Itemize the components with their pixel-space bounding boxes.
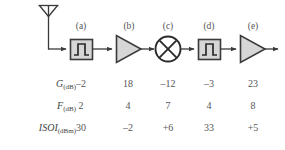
gain-value-e: 23 [233,79,273,89]
isoi-value-c: +6 [148,123,188,133]
noise-figure-value-d: 4 [189,101,229,111]
gain-value-d: –3 [189,79,229,89]
isoi-value-b: –2 [108,123,148,133]
antenna-icon [39,6,59,50]
isoi-value-a: 30 [61,123,101,133]
gain-value-a: –2 [61,79,101,89]
figure-canvas: (a) (b) (c) (d) (e) G(dB) –2 18 –12 –3 2… [0,0,285,150]
stage-label-c: (c) [153,22,183,32]
noise-figure-value-b: 4 [108,101,148,111]
noise-figure-value-e: 8 [233,101,273,111]
stage-d-filter-icon [199,40,221,60]
stage-b-amplifier-icon [117,36,142,63]
noise-figure-value-a: 2 [61,101,101,111]
stage-e-amplifier-icon [241,36,266,63]
noise-figure-value-c: 7 [148,101,188,111]
stage-label-d: (d) [194,22,224,32]
stage-label-e: (e) [238,22,268,32]
stage-label-b: (b) [114,22,144,32]
isoi-value-e: +5 [233,123,273,133]
gain-value-b: 18 [108,79,148,89]
stage-a-filter-icon [71,40,93,60]
gain-value-c: –12 [148,79,188,89]
stage-label-a: (a) [66,22,96,32]
isoi-value-d: 33 [189,123,229,133]
isoi-symbol: ISOI [39,122,58,133]
stage-c-mixer-icon [156,37,181,62]
